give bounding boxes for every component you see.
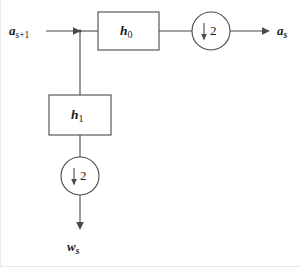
downsampler-bottom-factor-value: 2 (80, 168, 87, 183)
figure-root: as+1 h0 2 as h1 2 ws (0, 0, 300, 267)
arrow-head-output-bottom (76, 222, 84, 230)
diagram-canvas (1, 0, 300, 267)
label-block-h1-subscript: 1 (79, 113, 84, 124)
label-output-bottom-base: w (67, 239, 76, 254)
label-output-top-signal: as (277, 24, 287, 40)
arrow-head-output-top (262, 27, 270, 35)
label-downsampler-top-factor: 2 (210, 24, 217, 37)
label-input-signal: as+1 (9, 24, 29, 40)
label-output-top-subscript: s (284, 30, 288, 40)
label-block-h1-base: h (71, 107, 79, 122)
downsampler-top-factor-value: 2 (210, 23, 217, 38)
label-downsampler-bottom-factor: 2 (80, 169, 87, 182)
label-block-h0: h0 (120, 24, 133, 40)
label-block-h0-base: h (120, 23, 128, 38)
label-block-h1: h1 (71, 108, 84, 124)
label-output-bottom-subscript: s (76, 246, 80, 256)
label-input-subscript: s+1 (16, 30, 30, 40)
label-block-h0-subscript: 0 (128, 29, 133, 40)
label-output-bottom-signal: ws (67, 240, 79, 256)
